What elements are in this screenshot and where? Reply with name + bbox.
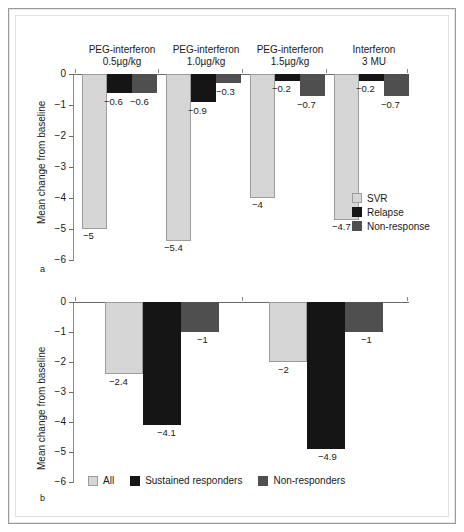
bar-b-g1-nonresponders: [181, 302, 219, 332]
panel-b-ytick-0: 0: [42, 296, 66, 307]
legend-item-sustained-responders: Sustained responders: [130, 475, 242, 486]
bar-value-b-g2-sustained: −4.9: [318, 451, 337, 462]
panel-a-xtick-0: [75, 69, 76, 73]
bar-a-g1-nonresponse: [132, 74, 157, 93]
panel-b-ytick-4: −4: [42, 416, 66, 427]
bar-a-g3-nonresponse: [300, 74, 325, 96]
figure-inner-panel: PEG-interferon 0.5µg/kg PEG-interferon 1…: [15, 15, 449, 517]
group-header-2-line1: PEG-interferon: [164, 44, 248, 56]
panel-a-xtick-1: [158, 69, 159, 73]
legend-swatch-all-icon: [88, 476, 98, 486]
panel-b-legend: All Sustained responders Non-responders: [88, 475, 361, 486]
panel-a-xtick-4: [407, 69, 408, 73]
bar-a-g2-svr: [166, 74, 191, 241]
legend-item-nonresponse: Non-response: [352, 220, 430, 232]
bar-value-a-g2-nonresponse: −0.3: [216, 86, 235, 97]
bar-a-g3-relapse: [275, 74, 300, 81]
bar-value-a-g1-svr: −5: [83, 230, 94, 241]
bar-a-g4-relapse: [359, 74, 384, 81]
bar-value-a-g3-relapse: −0.2: [272, 83, 291, 94]
bar-value-a-g4-relapse: −0.2: [356, 83, 375, 94]
panel-a-ytick-0: 0: [42, 68, 66, 79]
legend-label-nonresponse: Non-response: [367, 221, 430, 232]
group-header-4-line1: Interferon: [332, 44, 416, 56]
panel-b-xtick-2: [407, 297, 408, 301]
panel-a-y-axis-line: [73, 74, 74, 261]
legend-swatch-nonresponse-icon: [352, 221, 362, 231]
bar-value-a-g4-nonresponse: −0.7: [381, 99, 400, 110]
bar-a-g4-nonresponse: [384, 74, 409, 96]
legend-label-sustained-responders: Sustained responders: [145, 475, 242, 486]
bar-value-a-g2-relapse: −0.9: [188, 105, 207, 116]
legend-swatch-relapse-icon: [352, 207, 362, 217]
group-header-1-line2: 0.5µg/kg: [80, 56, 164, 68]
group-header-4-line2: 3 MU: [332, 56, 416, 68]
legend-swatch-non-responders-icon: [258, 476, 268, 486]
bar-b-g2-all: [269, 302, 307, 362]
panel-b-ytick-5: −5: [42, 446, 66, 457]
panel-a-xtick-3: [326, 69, 327, 73]
legend-swatch-svr-icon: [352, 193, 362, 203]
group-header-2-line2: 1.0µg/kg: [164, 56, 248, 68]
bar-value-b-g1-sustained: −4.1: [157, 427, 176, 438]
chart-panel-a: PEG-interferon 0.5µg/kg PEG-interferon 1…: [16, 16, 452, 278]
bar-b-g2-nonresponders: [345, 302, 383, 332]
panel-b-ytick-3: −3: [42, 386, 66, 397]
legend-item-svr: SVR: [352, 192, 430, 204]
panel-a-ytick-6: −6: [42, 254, 66, 265]
panel-a-ytick-5: −5: [42, 223, 66, 234]
panel-b-letter: b: [40, 493, 45, 503]
panel-a-letter: a: [40, 264, 45, 274]
panel-b-ytick-6: −6: [42, 476, 66, 487]
panel-a-ytick-2: −2: [42, 130, 66, 141]
chart-panel-b: Mean change from baseline 0 −1 −2 −3 −4 …: [16, 278, 452, 520]
bar-a-g2-nonresponse: [216, 74, 241, 83]
group-header-1-line1: PEG-interferon: [80, 44, 164, 56]
group-header-3-line1: PEG-interferon: [248, 44, 332, 56]
panel-a-legend: SVR Relapse Non-response: [352, 192, 430, 234]
legend-label-all: All: [103, 475, 114, 486]
panel-b-xtick-1: [242, 297, 243, 301]
bar-value-b-g1-all: −2.4: [109, 376, 128, 387]
panel-a-ytick-1: −1: [42, 99, 66, 110]
bar-value-b-g1-nonresponders: −1: [197, 334, 208, 345]
bar-a-g1-relapse: [107, 74, 132, 93]
bar-b-g1-sustained: [143, 302, 181, 425]
legend-item-non-responders: Non-responders: [258, 475, 345, 486]
bar-value-a-g4-svr: −4.7: [332, 221, 351, 232]
legend-item-relapse: Relapse: [352, 206, 430, 218]
legend-item-all: All: [88, 475, 114, 486]
bar-b-g2-sustained: [307, 302, 345, 449]
group-header-2: PEG-interferon 1.0µg/kg: [164, 44, 248, 68]
panel-b-ytick-1: −1: [42, 326, 66, 337]
bar-value-a-g1-relapse: −0.6: [104, 96, 123, 107]
panel-b-y-axis-line: [73, 302, 74, 483]
group-header-3: PEG-interferon 1.5µg/kg: [248, 44, 332, 68]
panel-a-xtick-2: [242, 69, 243, 73]
legend-swatch-sustained-responders-icon: [130, 476, 140, 486]
bar-value-a-g3-svr: −4: [252, 199, 263, 210]
figure-frame: PEG-interferon 0.5µg/kg PEG-interferon 1…: [8, 8, 456, 524]
bar-value-a-g2-svr: −5.4: [164, 242, 183, 253]
panel-b-ytick-2: −2: [42, 356, 66, 367]
panel-b-xtick-0: [75, 297, 76, 301]
legend-label-svr: SVR: [367, 193, 388, 204]
bar-value-b-g2-nonresponders: −1: [361, 334, 372, 345]
legend-label-non-responders: Non-responders: [273, 475, 345, 486]
bar-value-b-g2-all: −2: [278, 364, 289, 375]
group-header-4: Interferon 3 MU: [332, 44, 416, 68]
bar-value-a-g3-nonresponse: −0.7: [297, 99, 316, 110]
panel-a-ytick-4: −4: [42, 192, 66, 203]
bar-a-g2-relapse: [191, 74, 216, 102]
group-header-3-line2: 1.5µg/kg: [248, 56, 332, 68]
panel-a-ytick-3: −3: [42, 161, 66, 172]
bar-b-g1-all: [105, 302, 143, 374]
bar-value-a-g1-nonresponse: −0.6: [130, 96, 149, 107]
group-header-1: PEG-interferon 0.5µg/kg: [80, 44, 164, 68]
legend-label-relapse: Relapse: [367, 207, 404, 218]
